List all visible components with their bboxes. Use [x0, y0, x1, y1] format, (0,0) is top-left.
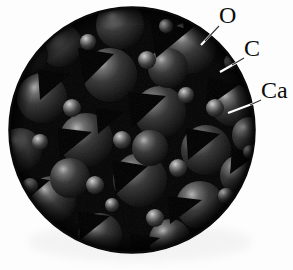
label-oxygen: O: [219, 3, 236, 27]
label-calcium: Ca: [261, 78, 288, 102]
label-carbon: C: [244, 36, 260, 60]
figure-container: O C Ca: [0, 0, 293, 270]
